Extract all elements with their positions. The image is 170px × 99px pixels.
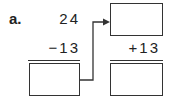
carry-answer-box[interactable] [110, 3, 163, 36]
addend: +13 [118, 39, 160, 56]
sum-answer-box[interactable] [110, 63, 163, 96]
addition-rule [110, 60, 163, 61]
